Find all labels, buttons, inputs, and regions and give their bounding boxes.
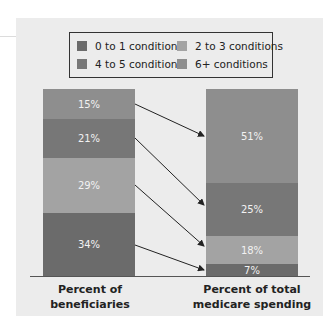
arrow-4-5 (135, 138, 204, 205)
connector-arrows (0, 0, 334, 330)
x-label-line1: Percent of total (190, 282, 314, 297)
arrow-0-1 (135, 245, 204, 270)
arrow-2-3 (135, 185, 204, 246)
x-label-beneficiaries: Percent of beneficiaries (30, 282, 150, 312)
x-label-spending: Percent of total medicare spending (190, 282, 314, 312)
x-label-line2: medicare spending (190, 297, 314, 312)
arrow-6plus (135, 104, 204, 136)
x-axis-baseline (30, 276, 310, 277)
